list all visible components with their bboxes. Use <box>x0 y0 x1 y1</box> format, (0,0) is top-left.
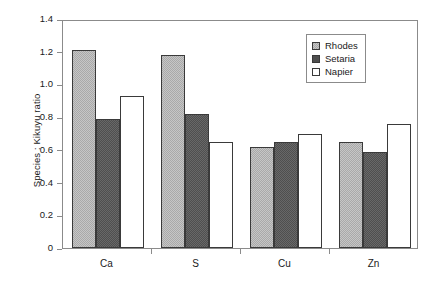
legend-item-rhodes: Rhodes <box>312 39 358 52</box>
x-axis-label-s: S <box>192 258 199 269</box>
y-tick-label: 0 <box>48 242 53 253</box>
x-tick-mark <box>151 249 152 254</box>
legend-swatch-rhodes-icon <box>312 42 320 50</box>
legend-item-setaria: Setaria <box>312 52 358 65</box>
bar-cu-rhodes <box>250 147 274 248</box>
legend-swatch-setaria-icon <box>312 55 320 63</box>
x-axis-label-cu: Cu <box>278 258 291 269</box>
y-tick-label: 1.0 <box>40 78 53 89</box>
legend-swatch-napier-icon <box>312 68 320 76</box>
bar-ca-setaria <box>96 119 120 248</box>
y-tick-label: 0.8 <box>40 111 53 122</box>
y-tick-label: 0.6 <box>40 144 53 155</box>
x-axis-label-ca: Ca <box>100 258 113 269</box>
bar-ca-rhodes <box>72 50 96 248</box>
bar-ca-napier <box>120 96 144 248</box>
legend: RhodesSetariaNapier <box>306 34 366 83</box>
bar-s-setaria <box>185 114 209 248</box>
bar-cu-setaria <box>274 142 298 248</box>
bar-s-rhodes <box>161 55 185 248</box>
y-tick-label: 1.2 <box>40 46 53 57</box>
y-tick-label: 0.2 <box>40 209 53 220</box>
bar-chart-figure: Species : Kikuyu ratio 00.20.40.60.81.01… <box>0 0 436 284</box>
legend-label: Rhodes <box>325 40 358 51</box>
x-tick-mark <box>240 249 241 254</box>
legend-label: Setaria <box>325 53 355 64</box>
y-tick-label: 1.4 <box>40 13 53 24</box>
legend-item-napier: Napier <box>312 65 358 78</box>
x-axis-label-zn: Zn <box>368 258 380 269</box>
bar-zn-rhodes <box>339 142 363 248</box>
bar-cu-napier <box>298 134 322 249</box>
bar-zn-setaria <box>363 152 387 249</box>
x-tick-mark <box>329 249 330 254</box>
y-tick-label: 0.4 <box>40 177 53 188</box>
legend-label: Napier <box>325 66 353 77</box>
bar-s-napier <box>209 142 233 248</box>
bar-zn-napier <box>387 124 411 248</box>
